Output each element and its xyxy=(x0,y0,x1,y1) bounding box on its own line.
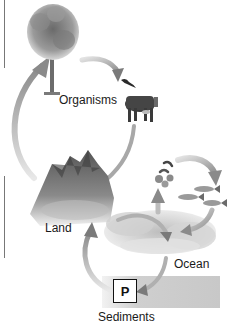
arrow-particles-to-fish xyxy=(178,158,222,186)
phosphorus-symbol: P xyxy=(121,284,130,299)
cow-icon xyxy=(125,96,158,122)
arrow-land-to-ocean-particles xyxy=(151,188,165,212)
fish-icon xyxy=(178,185,227,207)
phosphate-particles-icon xyxy=(155,162,174,188)
arrow-land-to-organisms xyxy=(15,56,50,178)
mountain-icon xyxy=(30,150,114,226)
cycle-graphic xyxy=(0,0,228,327)
label-sediments: Sediments xyxy=(98,310,155,324)
phosphorus-box: P xyxy=(113,279,137,303)
label-ocean: Ocean xyxy=(174,257,209,271)
tree-icon xyxy=(27,4,79,95)
label-land: Land xyxy=(45,221,72,235)
arrow-tree-to-cow xyxy=(82,59,124,82)
label-organisms: Organisms xyxy=(59,93,117,107)
arrow-organisms-to-land xyxy=(106,126,134,180)
bird-icon xyxy=(121,79,136,88)
